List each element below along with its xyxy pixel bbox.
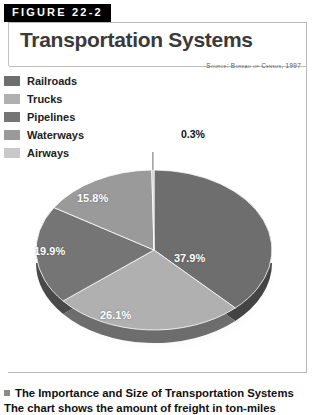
legend-item-trucks: Trucks: [4, 90, 84, 108]
legend-swatch-railroads: [4, 76, 20, 86]
figure-number-badge: FIGURE 22-2: [4, 4, 111, 22]
slice-label-trucks: 26.1%: [100, 309, 131, 321]
pie-chart: 37.9% 26.1% 19.9% 15.8%: [28, 152, 280, 357]
square-bullet-icon: [4, 390, 10, 396]
legend-item-pipelines: Pipelines: [4, 108, 84, 126]
legend-item-railroads: Railroads: [4, 72, 84, 90]
title-left-rule: [8, 22, 9, 66]
legend-label-waterways: Waterways: [27, 129, 84, 141]
legend-swatch-trucks: [4, 94, 20, 104]
figure-title: Transportation Systems: [20, 28, 253, 52]
legend-item-waterways: Waterways: [4, 126, 84, 144]
pie-chart-svg: [28, 152, 280, 357]
legend-label-trucks: Trucks: [27, 93, 62, 105]
caption-body: The chart shows the amount of freight in…: [4, 401, 313, 415]
legend-swatch-pipelines: [4, 112, 20, 122]
pie-slices: [36, 170, 272, 330]
legend-swatch-airways: [4, 148, 20, 158]
legend-label-pipelines: Pipelines: [27, 111, 75, 123]
slice-label-airways: 0.3%: [181, 128, 205, 140]
figure-caption: The Importance and Size of Transportatio…: [4, 386, 313, 415]
source-attribution: Source: Bureau of Census, 1997: [206, 62, 301, 69]
callout-leader-line: [153, 152, 207, 170]
slice-label-waterways: 15.8%: [77, 192, 108, 204]
legend-swatch-waterways: [4, 130, 20, 140]
chart-legend: Railroads Trucks Pipelines Waterways Air…: [4, 72, 84, 162]
legend-label-railroads: Railroads: [27, 75, 77, 87]
caption-headline: The Importance and Size of Transportatio…: [15, 386, 294, 400]
caption-headline-row: The Importance and Size of Transportatio…: [4, 386, 313, 400]
slice-label-railroads: 37.9%: [174, 252, 205, 264]
slice-label-pipelines: 19.9%: [34, 245, 65, 257]
figure-root: FIGURE 22-2 Transportation Systems Sourc…: [0, 0, 315, 415]
